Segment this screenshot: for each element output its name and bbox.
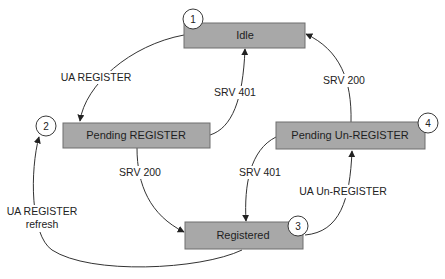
state-idle: Idle 1 [183,9,305,48]
label-ua-register-refresh-line2: refresh [26,218,59,230]
state-registered-label: Registered [216,229,269,241]
label-ua-register: UA REGISTER [61,71,132,83]
state-pending-register-label: Pending REGISTER [86,129,186,141]
state-pending-register-number: 2 [43,121,49,132]
label-srv-200-right: SRV 200 [323,74,365,86]
label-ua-un-register: UA Un-REGISTER [299,185,387,197]
state-pending-unregister-label: Pending Un-REGISTER [291,129,408,141]
state-registered: Registered 3 [185,216,308,249]
state-idle-label: Idle [236,29,254,41]
edge-pending-register-to-registered [137,148,184,232]
label-srv-401-left: SRV 401 [214,86,256,98]
state-pending-unregister-number: 4 [425,118,431,129]
state-pending-unregister: Pending Un-REGISTER 4 [276,113,438,149]
state-diagram: UA REGISTER SRV 401 SRV 200 UA REGISTER … [0,0,445,279]
label-srv-401-right: SRV 401 [239,166,281,178]
label-srv-200-left: SRV 200 [119,166,161,178]
state-idle-number: 1 [190,14,196,25]
state-pending-register: Pending REGISTER 2 [36,116,210,148]
label-ua-register-refresh-line1: UA REGISTER [7,205,78,217]
state-registered-number: 3 [295,221,301,232]
